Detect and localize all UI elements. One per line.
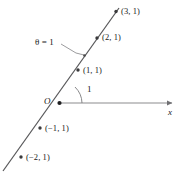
label-angle-measure: 1 [87,85,92,94]
dot-point-1-1 [76,68,79,71]
dot-point-n2-1 [19,155,22,158]
dot-point-2-1 [95,36,98,39]
dot-origin [57,101,61,105]
label-point-n1-1: (−1, 1) [45,124,69,133]
dot-point-3-1 [114,10,117,13]
figure-container: (3, 1) (2, 1) θ = 1 (1, 1) O 1 x (−1, 1)… [0,0,188,173]
label-point-n2-1: (−2, 1) [26,153,50,162]
label-origin: O [44,97,51,106]
label-point-1-1: (1, 1) [83,66,102,75]
label-point-3-1: (3, 1) [121,7,140,16]
figure-graphics [0,0,188,173]
label-point-2-1: (2, 1) [102,33,121,42]
angle-arc [75,87,82,103]
dot-point-n1-1 [38,126,41,129]
label-theta-equals-1: θ = 1 [35,38,54,47]
label-x-axis: x [168,108,172,117]
theta-leader-line [61,44,84,55]
theta-leader-endpoint [83,54,86,57]
